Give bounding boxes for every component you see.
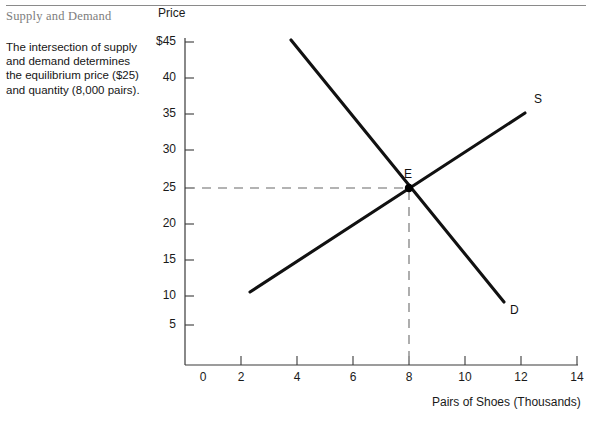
y-tick-label-15: 15: [142, 252, 176, 266]
x-tick-label-12: 12: [506, 370, 536, 384]
supply-curve-label: S: [534, 92, 542, 106]
y-tick-label-25: 25: [142, 180, 176, 194]
y-tick-label-20: 20: [142, 216, 176, 230]
equilibrium-point-label: E: [404, 167, 412, 181]
y-axis-ticks: [185, 42, 194, 325]
demand-curve: [291, 40, 504, 302]
x-tick-label-8: 8: [394, 370, 424, 384]
supply-demand-chart: Price Pairs of Shoes (Thousands) $45 40 …: [0, 0, 591, 422]
equilibrium-point-marker: [405, 184, 413, 192]
y-tick-label-40: 40: [142, 70, 176, 84]
x-tick-label-10: 10: [450, 370, 480, 384]
x-axis-title: Pairs of Shoes (Thousands): [432, 395, 581, 409]
y-axis-title: Price: [158, 6, 185, 20]
demand-curve-label: D: [510, 303, 519, 317]
x-tick-label-6: 6: [338, 370, 368, 384]
x-tick-label-2: 2: [226, 370, 256, 384]
page-root: Supply and Demand The intersection of su…: [0, 0, 591, 422]
x-tick-label-4: 4: [282, 370, 312, 384]
y-tick-label-30: 30: [142, 142, 176, 156]
y-tick-label-10: 10: [142, 288, 176, 302]
y-tick-label-35: 35: [142, 106, 176, 120]
supply-curve: [250, 113, 525, 292]
y-tick-label-5: 5: [142, 317, 176, 331]
x-tick-label-14: 14: [562, 370, 591, 384]
y-tick-label-45: $45: [142, 34, 176, 48]
chart-canvas: [0, 0, 591, 422]
x-tick-label-0: 0: [188, 370, 218, 384]
